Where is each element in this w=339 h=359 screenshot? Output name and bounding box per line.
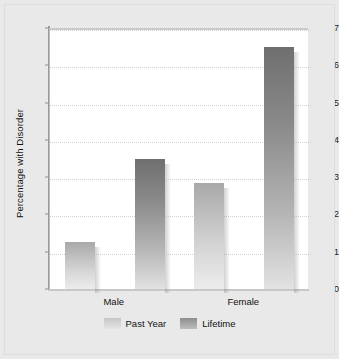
- legend-swatch: [104, 318, 121, 329]
- chart-legend: Past YearLifetime: [0, 318, 339, 329]
- legend-label: Past Year: [126, 318, 167, 329]
- y-axis-title: Percentage with Disorder: [14, 59, 25, 269]
- plot-area: [50, 30, 308, 289]
- bar-body: [264, 47, 294, 289]
- gridline: [50, 30, 311, 31]
- bar: [264, 47, 294, 289]
- legend-label: Lifetime: [202, 318, 235, 329]
- bar-shadow: [224, 188, 230, 293]
- x-axis-category-label: Male: [103, 296, 124, 307]
- x-axis-category-label: Female: [227, 296, 259, 307]
- bar-shadow: [294, 52, 300, 293]
- x-axis-line: [48, 289, 309, 291]
- bar: [65, 242, 95, 289]
- legend-item: Past Year: [104, 318, 167, 329]
- bar-body: [65, 242, 95, 289]
- bar-body: [194, 183, 224, 289]
- legend-item: Lifetime: [180, 318, 235, 329]
- bar-shadow: [95, 247, 101, 293]
- bar-body: [135, 159, 165, 290]
- chart-figure: Percentage with Disorder 01234567 MaleFe…: [0, 0, 339, 359]
- bar: [194, 183, 224, 289]
- bar-shadow: [165, 164, 171, 294]
- bar: [135, 159, 165, 290]
- plot-frame: [49, 28, 308, 289]
- legend-swatch: [180, 318, 197, 329]
